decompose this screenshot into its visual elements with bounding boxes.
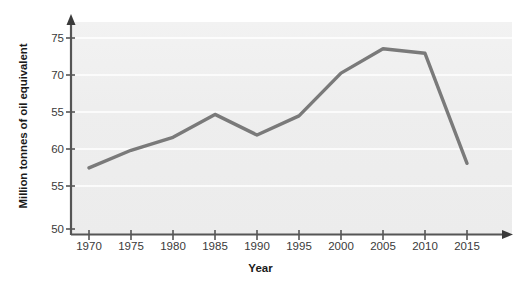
y-tick-label: 55 (30, 181, 64, 192)
x-axis-arrow-icon (502, 230, 513, 239)
line-chart: 75 70 55 60 55 50 1970 1975 1980 1985 19… (0, 0, 521, 286)
x-tick-label: 1990 (234, 240, 280, 252)
x-tick-label: 1995 (276, 240, 322, 252)
x-axis-title: Year (0, 262, 521, 274)
x-tick-label: 2015 (444, 240, 490, 252)
data-series-line (89, 49, 467, 168)
y-tick-label: 55 (30, 107, 64, 118)
x-tick-label: 1985 (192, 240, 238, 252)
y-tick-label: 60 (30, 144, 64, 155)
x-tick-label: 2005 (360, 240, 406, 252)
x-tick-label: 1975 (108, 240, 154, 252)
x-tick-label: 1970 (66, 240, 112, 252)
x-tick-label: 2000 (318, 240, 364, 252)
y-tick-label: 70 (30, 70, 64, 81)
y-tick-label: 50 (30, 224, 64, 235)
x-tick-label: 2010 (402, 240, 448, 252)
y-axis-arrow-icon (67, 14, 76, 25)
x-tick-label: 1980 (150, 240, 196, 252)
y-tick-label: 75 (30, 33, 64, 44)
y-axis-title: Million tonnes of oil equivalent (17, 11, 29, 241)
